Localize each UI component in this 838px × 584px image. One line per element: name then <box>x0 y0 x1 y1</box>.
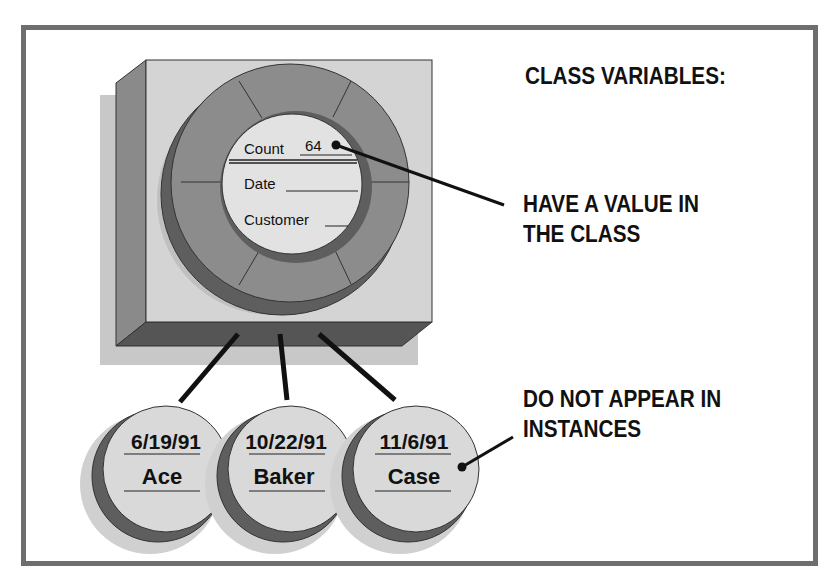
diagram-title: CLASS VARIABLES: <box>525 62 726 90</box>
instance-case-name: Case <box>388 464 441 489</box>
field-count-label: Count <box>244 140 285 157</box>
callout-class-line1: HAVE A VALUE IN <box>523 190 699 218</box>
field-count-value: 64 <box>305 137 322 154</box>
callout-instances-line2: INSTANCES <box>523 415 641 443</box>
class-box-side <box>116 60 146 346</box>
callout-class-line2: THE CLASS <box>523 220 640 248</box>
instance-ace-date: 6/19/91 <box>131 430 201 453</box>
callout-instances-line1: DO NOT APPEAR IN <box>523 385 721 413</box>
class-box-bottom <box>116 322 432 346</box>
class-core <box>222 114 362 254</box>
instance-baker-name: Baker <box>253 464 315 489</box>
instance-case-date: 11/6/91 <box>380 430 449 453</box>
instance-ace-name: Ace <box>142 464 182 489</box>
instance-baker-date: 10/22/91 <box>245 430 327 453</box>
field-date-label: Date <box>244 175 276 192</box>
field-customer-label: Customer <box>244 211 309 228</box>
